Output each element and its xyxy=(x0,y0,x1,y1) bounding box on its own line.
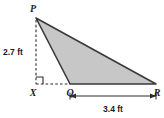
right-angle-marker-icon xyxy=(36,77,43,84)
geometry-figure: P Q R X 2.7 ft 3.4 ft xyxy=(0,0,164,118)
vertex-label-r: R xyxy=(153,87,161,98)
base-measurement-label: 3.4 ft xyxy=(103,104,123,114)
triangle-pqr xyxy=(36,18,156,84)
vertex-label-q: Q xyxy=(66,87,73,98)
figure-canvas: P Q R X 2.7 ft 3.4 ft xyxy=(0,0,164,118)
vertex-label-p: P xyxy=(30,3,37,14)
vertex-label-x: X xyxy=(29,87,37,98)
height-measurement-label: 2.7 ft xyxy=(3,47,23,57)
